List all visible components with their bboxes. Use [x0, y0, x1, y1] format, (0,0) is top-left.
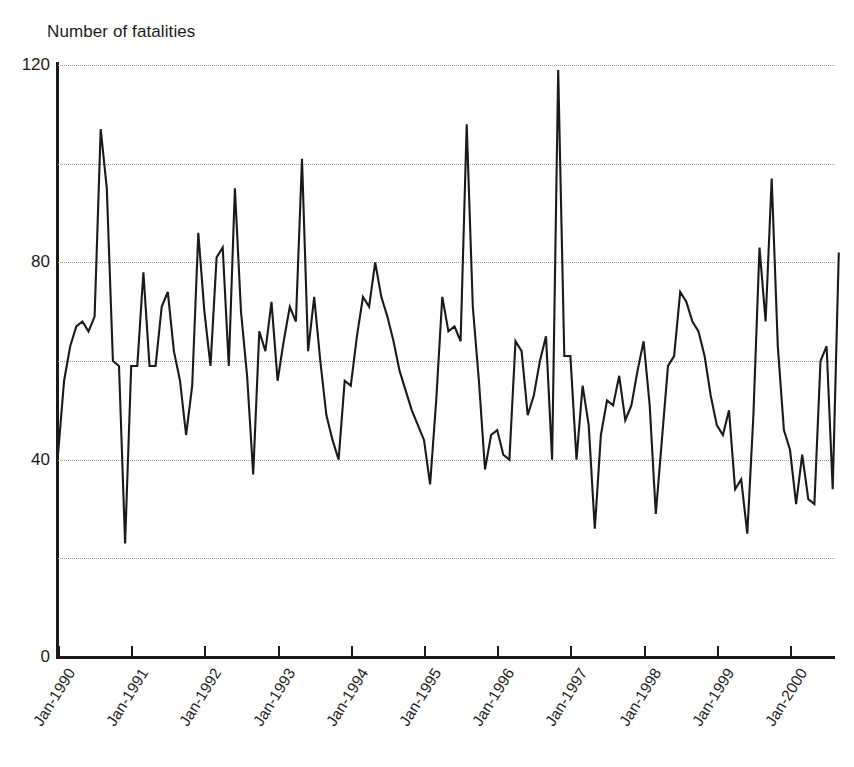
y-tick-label: 0: [41, 647, 50, 667]
x-tick-mark: [424, 646, 426, 657]
plot-area: [58, 65, 835, 657]
x-tick-mark: [497, 646, 499, 657]
fatalities-series-line: [58, 70, 839, 544]
x-tick-label: Jan-1994: [323, 665, 373, 729]
series-plot: [58, 65, 835, 657]
x-tick-mark: [790, 646, 792, 657]
x-tick-label: Jan-1992: [176, 665, 226, 729]
x-tick-mark: [204, 646, 206, 657]
x-tick-mark: [717, 646, 719, 657]
x-tick-label: Jan-2000: [762, 665, 812, 729]
x-tick-label: Jan-1997: [542, 665, 592, 729]
x-tick-label: Jan-1996: [469, 665, 519, 729]
y-tick-label: 40: [31, 450, 50, 470]
x-tick-mark: [570, 646, 572, 657]
x-tick-mark: [351, 646, 353, 657]
y-tick-label: 120: [22, 55, 50, 75]
y-axis-title: Number of fatalities: [47, 22, 195, 42]
x-tick-label: Jan-1998: [615, 665, 665, 729]
x-tick-mark: [131, 646, 133, 657]
x-tick-label: Jan-1993: [249, 665, 299, 729]
fatalities-line-chart: Number of fatalities 04080120 Jan-1990Ja…: [0, 0, 854, 767]
x-tick-label: Jan-1999: [689, 665, 739, 729]
x-tick-mark: [644, 646, 646, 657]
y-axis-tick-labels: 04080120: [0, 0, 50, 767]
x-tick-mark: [58, 646, 60, 657]
x-tick-mark: [278, 646, 280, 657]
x-tick-label: Jan-1995: [396, 665, 446, 729]
x-tick-label: Jan-1991: [103, 665, 153, 729]
y-tick-label: 80: [31, 252, 50, 272]
